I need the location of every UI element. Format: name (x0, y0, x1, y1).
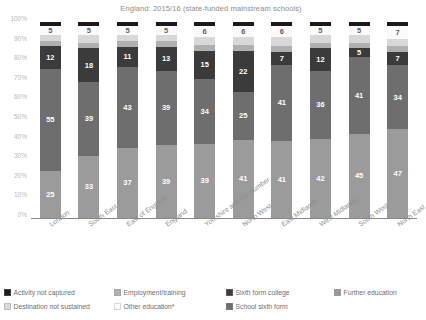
legend-label: School sixth form (236, 302, 288, 312)
y-axis-tick: 50% (14, 113, 27, 120)
bar-segment: 11 (117, 47, 138, 68)
bar-segment: 47 (387, 129, 408, 218)
bar-segment (349, 35, 370, 42)
bar-segment: 33 (78, 156, 99, 218)
legend-item[interactable]: Destination not sustained (4, 302, 90, 312)
legend-item[interactable]: Further education (334, 288, 397, 298)
bar-column[interactable]: 773447 (378, 22, 417, 218)
bar-column[interactable]: 6153439 (185, 22, 224, 218)
legend-label: Employment/training (124, 288, 186, 298)
x-label-cell: East of England (108, 220, 147, 278)
x-label-cell: Yorkshire and the Humber (185, 220, 224, 278)
stacked-bar: 5123642 (310, 22, 331, 218)
x-label-cell: South West (340, 220, 379, 278)
x-label-cell: North West (224, 220, 263, 278)
legend-item[interactable]: School sixth form (226, 302, 288, 312)
bar-segment: 6 (233, 26, 254, 37)
x-label-cell: West Midlands (301, 220, 340, 278)
legend-swatch-icon (4, 303, 11, 310)
legend-item[interactable]: Employment/training (114, 288, 185, 298)
bar-segment: 25 (40, 171, 61, 218)
bar-segment: 5 (156, 26, 177, 35)
bar-segment (387, 39, 408, 47)
bar-segment (310, 35, 331, 43)
bar-segment: 25 (233, 92, 254, 140)
bar-segment: 13 (156, 47, 177, 72)
bar-segment: 7 (387, 52, 408, 65)
y-axis-tick: 0% (18, 211, 27, 218)
legend-item[interactable]: Sixth form college (226, 288, 290, 298)
bar-segment: 55 (40, 69, 61, 172)
bar-column[interactable]: 5133939 (147, 22, 186, 218)
y-axis-tick: 90% (14, 34, 27, 41)
stacked-bar: 773447 (387, 22, 408, 218)
y-axis-tick: 100% (10, 15, 27, 22)
bar-segment: 39 (78, 82, 99, 156)
y-axis-tick: 60% (14, 93, 27, 100)
y-axis-tick: 70% (14, 73, 27, 80)
bar-segment: 5 (40, 26, 61, 35)
legend-swatch-icon (334, 289, 341, 296)
bar-segment: 37 (117, 148, 138, 218)
bar-segment: 41 (271, 65, 292, 142)
bar-segment: 7 (387, 26, 408, 39)
bar-segment: 39 (194, 144, 215, 218)
legend-item[interactable]: Activity not captured (4, 288, 75, 298)
stacked-bar: 5125525 (40, 22, 61, 218)
bar-segment: 15 (194, 51, 215, 80)
legend-label: Sixth form college (236, 288, 290, 298)
bar-column[interactable]: 554145 (340, 22, 379, 218)
bar-segment: 5 (349, 26, 370, 35)
x-label-cell: East Midlands (263, 220, 302, 278)
chart-legend: Activity not capturedEmployment/training… (4, 288, 418, 318)
y-axis: 100%90%80%70%60%50%40%30%20%10%0% (0, 18, 29, 218)
bar-segment: 12 (40, 46, 61, 68)
bar-segment: 22 (233, 51, 254, 93)
y-axis-tick: 20% (14, 171, 27, 178)
legend-swatch-icon (226, 289, 233, 296)
bar-segment: 34 (387, 65, 408, 129)
bar-segment (78, 35, 99, 43)
bar-segment: 41 (349, 57, 370, 134)
bars-area: 5125525518393351143375133939615343962225… (31, 22, 417, 218)
y-axis-tick: 40% (14, 132, 27, 139)
bar-segment: 6 (194, 26, 215, 37)
bar-segment: 6 (271, 26, 292, 37)
bar-segment: 43 (117, 67, 138, 148)
legend-label: Destination not sustained (14, 302, 90, 312)
bar-segment: 18 (78, 48, 99, 82)
stacked-bar: 674141 (271, 22, 292, 218)
x-label-cell: North East (378, 220, 417, 278)
legend-label: Activity not captured (14, 288, 75, 298)
bar-column[interactable]: 5125525 (31, 22, 70, 218)
x-label-cell: England (147, 220, 186, 278)
bar-segment: 7 (271, 52, 292, 65)
bar-segment (194, 37, 215, 45)
stacked-bar: 554145 (349, 22, 370, 218)
x-label-cell: South East (70, 220, 109, 278)
legend-swatch-icon (114, 303, 121, 310)
legend-label: Other education* (124, 302, 175, 312)
y-axis-tick: 10% (14, 191, 27, 198)
x-axis-labels: LondonSouth EastEast of EnglandEnglandYo… (31, 220, 417, 278)
stacked-bar: 5133939 (156, 22, 177, 218)
legend-swatch-icon (226, 303, 233, 310)
bar-column[interactable]: 5123642 (301, 22, 340, 218)
bar-segment: 5 (349, 48, 370, 57)
bar-segment: 12 (310, 48, 331, 71)
y-axis-tick: 30% (14, 152, 27, 159)
y-axis-tick: 80% (14, 54, 27, 61)
legend-swatch-icon (114, 289, 121, 296)
bar-segment (271, 37, 292, 46)
bar-segment: 5 (78, 26, 99, 35)
chart-subtitle: England: 2015/16 (state-funded mainstrea… (0, 4, 422, 13)
legend-item[interactable]: Other education* (114, 302, 175, 312)
legend-swatch-icon (4, 289, 11, 296)
bar-segment (233, 37, 254, 45)
bar-segment: 39 (156, 145, 177, 219)
bar-column[interactable]: 674141 (263, 22, 302, 218)
bar-column[interactable]: 5183933 (70, 22, 109, 218)
bar-column[interactable]: 5114337 (108, 22, 147, 218)
bar-segment: 39 (156, 71, 177, 145)
